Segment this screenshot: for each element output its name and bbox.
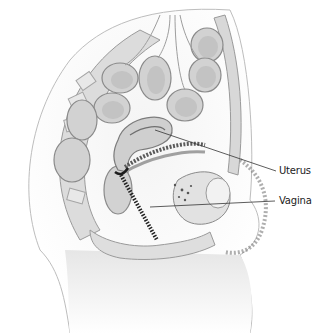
vagina-label: Vagina [279, 195, 312, 206]
uterus-label: Uterus [279, 165, 311, 176]
bladder [173, 172, 230, 224]
